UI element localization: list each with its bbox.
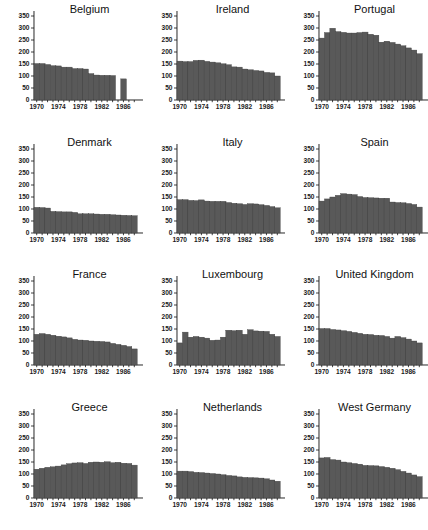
y-tick-label: 150 — [304, 60, 315, 67]
bar — [336, 460, 342, 498]
y-tick-label: 50 — [22, 482, 30, 489]
bar — [88, 74, 94, 100]
y-tick-label: 200 — [161, 181, 172, 188]
bar — [193, 60, 199, 100]
bar — [406, 48, 412, 100]
bar — [110, 462, 116, 497]
bar-group — [34, 64, 126, 100]
chart-panel-greece: Greece0501001502002503003501970197419781… — [0, 398, 143, 530]
y-tick-label: 350 — [19, 145, 30, 152]
bar — [182, 62, 188, 100]
bar — [325, 198, 331, 232]
bar — [177, 471, 183, 498]
chart-panel-france: France0501001502002503003501970197419781… — [0, 265, 143, 398]
bar — [83, 213, 89, 232]
y-tick-label: 350 — [19, 277, 30, 284]
bar — [187, 62, 193, 100]
bar — [104, 75, 110, 100]
y-tick-label: 50 — [165, 217, 173, 224]
bar — [132, 465, 138, 498]
bar — [220, 474, 226, 497]
chart-panel-west-germany: West Germany0501001502002503003501970197… — [285, 398, 428, 530]
y-tick-label: 50 — [165, 482, 173, 489]
bar — [50, 66, 56, 100]
y-tick-label: 250 — [304, 434, 315, 441]
bar — [61, 211, 67, 232]
panel-title: Spain — [361, 136, 389, 148]
y-tick-label: 0 — [168, 494, 172, 501]
x-tick-label: 1982 — [94, 368, 109, 375]
bar — [72, 339, 78, 365]
bar — [99, 75, 105, 100]
bar — [236, 476, 242, 497]
bar — [209, 473, 215, 497]
y-tick-label: 350 — [19, 12, 30, 19]
bar — [336, 330, 342, 365]
panel-title: Portugal — [354, 3, 395, 15]
bar — [242, 204, 248, 233]
x-tick-label: 1970 — [172, 103, 187, 110]
y-tick-label: 100 — [161, 205, 172, 212]
bar — [374, 197, 380, 232]
x-tick-label: 1978 — [73, 501, 88, 508]
y-tick-label: 350 — [304, 145, 315, 152]
x-tick-label: 1982 — [237, 501, 252, 508]
y-tick-label: 300 — [161, 289, 172, 296]
bar — [368, 465, 374, 497]
bar — [269, 334, 275, 365]
bar — [374, 465, 380, 497]
bar — [67, 67, 73, 100]
y-tick-label: 100 — [19, 470, 30, 477]
bar — [390, 202, 396, 233]
y-tick-label: 300 — [161, 422, 172, 429]
x-tick-label: 1982 — [380, 501, 395, 508]
y-tick-label: 0 — [311, 494, 315, 501]
x-tick-label: 1978 — [358, 236, 373, 243]
y-tick-label: 250 — [161, 169, 172, 176]
x-tick-label: 1970 — [315, 501, 330, 508]
bar — [50, 211, 56, 233]
bar — [357, 33, 363, 100]
y-tick-label: 300 — [19, 157, 30, 164]
y-tick-label: 200 — [19, 446, 30, 453]
bar — [204, 473, 210, 498]
x-tick-label: 1974 — [51, 501, 66, 508]
y-tick-label: 100 — [19, 205, 30, 212]
bar — [374, 35, 380, 100]
y-tick-label: 50 — [22, 349, 30, 356]
y-tick-label: 100 — [304, 205, 315, 212]
bar — [406, 203, 412, 233]
x-tick-label: 1986 — [401, 236, 416, 243]
bar — [253, 331, 259, 365]
y-tick-label: 0 — [168, 229, 172, 236]
panel-title: Greece — [71, 401, 107, 413]
bar — [45, 334, 51, 365]
panel-title: Ireland — [215, 3, 249, 15]
bar — [401, 202, 407, 232]
bar — [242, 334, 248, 365]
bar — [198, 337, 204, 365]
bar — [384, 336, 390, 365]
y-tick-label: 150 — [19, 458, 30, 465]
bar — [368, 197, 374, 232]
bar — [45, 208, 51, 233]
bar — [187, 200, 193, 233]
bar — [330, 28, 336, 100]
y-tick-label: 350 — [304, 277, 315, 284]
bar — [258, 331, 264, 365]
bar — [341, 462, 347, 498]
bar — [67, 463, 73, 497]
y-tick-label: 300 — [304, 24, 315, 31]
y-tick-label: 300 — [19, 422, 30, 429]
bar — [231, 331, 237, 365]
bar — [56, 336, 62, 365]
panel-title: Netherlands — [203, 401, 263, 413]
bar — [215, 201, 221, 233]
bar — [395, 202, 401, 232]
bar — [83, 69, 89, 100]
bar — [99, 214, 105, 233]
bar — [115, 344, 121, 365]
x-tick-label: 1970 — [29, 103, 44, 110]
bar — [94, 214, 100, 233]
bar — [319, 38, 325, 100]
